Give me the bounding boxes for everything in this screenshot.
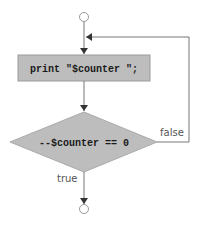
false-label: false (160, 127, 184, 138)
action-text: print "$counter "; (30, 64, 138, 75)
decision-text: --$counter == 0 (39, 138, 129, 149)
start-node (80, 13, 89, 22)
flowchart: print "$counter "; --$counter == 0 false… (0, 0, 198, 226)
true-label: true (57, 173, 78, 184)
end-node (80, 205, 89, 214)
